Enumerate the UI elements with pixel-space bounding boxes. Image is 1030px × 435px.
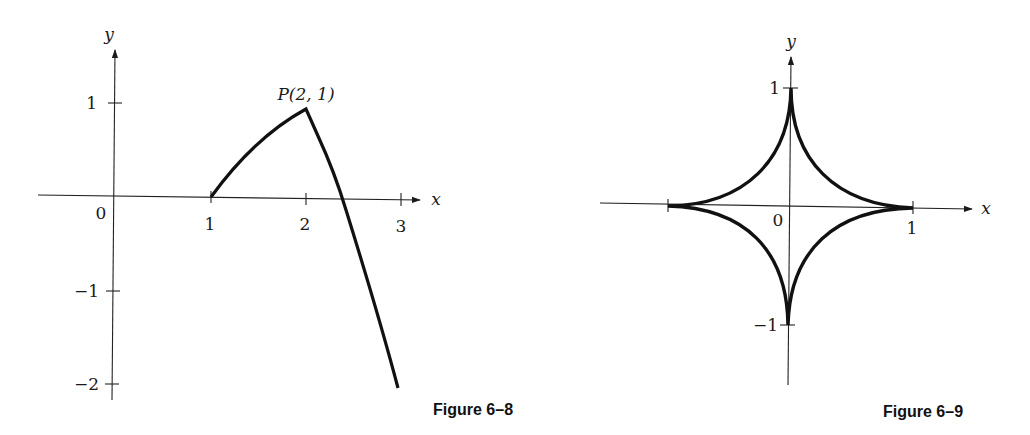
- figures-canvas: y x 0 1 2 3 1 −1 −2 P(2, 1) Figure 6–8 y…: [0, 0, 1030, 435]
- origin-label: 0: [773, 210, 784, 230]
- origin-label: 0: [96, 203, 107, 223]
- y-tick-label-neg2: −2: [74, 374, 99, 394]
- figure-6-9-caption: Figure 6–9: [883, 403, 963, 420]
- x-axis-label: x: [981, 198, 991, 218]
- y-axis-label: y: [785, 31, 796, 51]
- x-axis-label: x: [431, 189, 441, 209]
- x-axis: [38, 195, 420, 200]
- point-p-label-text: P(2, 1): [276, 84, 334, 104]
- x-tick-label-3: 3: [396, 216, 407, 236]
- y-tick-label-1: 1: [86, 93, 97, 113]
- x-tick-label-2: 2: [300, 214, 311, 234]
- x-axis: [600, 203, 972, 209]
- x-tick-label-1: 1: [907, 218, 918, 238]
- figure-6-8: y x 0 1 2 3 1 −1 −2 P(2, 1) Figure 6–8: [38, 24, 513, 418]
- y-axis-label: y: [103, 24, 114, 44]
- x-tick-label-1: 1: [205, 214, 216, 234]
- y-tick-label-1: 1: [769, 78, 780, 98]
- x-ticks: [211, 191, 401, 206]
- figure-6-9: y x 0 1 1 −1 Figure 6–9: [600, 31, 991, 420]
- y-tick-label-neg1: −1: [753, 315, 778, 335]
- point-p-label: P(2, 1): [276, 84, 334, 104]
- curve-path: [211, 109, 398, 388]
- y-tick-label-neg1: −1: [74, 281, 99, 301]
- figure-6-8-caption: Figure 6–8: [433, 401, 513, 418]
